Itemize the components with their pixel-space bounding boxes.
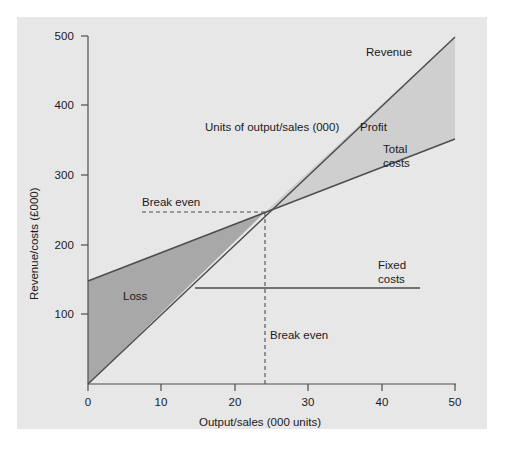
x-tick-label-20: 20	[221, 396, 249, 408]
fixed-costs-label-line2: costs	[378, 272, 406, 286]
chart-plot-area	[0, 0, 506, 459]
total-costs-series-label: Total costs	[383, 142, 410, 170]
loss-region-label: Loss	[123, 290, 147, 302]
x-axis-title: Output/sales (000 units)	[199, 416, 321, 428]
x-tick-label-10: 10	[147, 396, 175, 408]
y-tick-label-100: 100	[40, 308, 74, 320]
units-note-label: Units of output/sales (000)	[205, 121, 339, 133]
y-tick-label-500: 500	[40, 30, 74, 42]
x-tick-label-50: 50	[441, 396, 469, 408]
break-even-chart-figure: 500 400 300 200 100 0 10 20 30 40 50 Rev…	[0, 0, 506, 459]
y-tick-label-300: 300	[40, 169, 74, 181]
revenue-series-label: Revenue	[366, 45, 412, 59]
fixed-costs-series-label: Fixed costs	[378, 258, 406, 286]
profit-region-label: Profit	[360, 121, 387, 133]
y-tick-label-400: 400	[40, 99, 74, 111]
x-tick-label-40: 40	[368, 396, 396, 408]
y-axis-title: Revenue/costs (£000)	[28, 187, 40, 300]
break-even-horizontal-label: Break even	[142, 196, 200, 208]
y-tick-label-200: 200	[40, 239, 74, 251]
y-axis-ticks	[81, 36, 88, 314]
fixed-costs-label-line1: Fixed	[378, 258, 406, 272]
x-axis-ticks	[88, 384, 455, 391]
x-tick-label-0: 0	[74, 396, 102, 408]
total-costs-label-line1: Total	[383, 142, 410, 156]
break-even-vertical-label: Break even	[270, 329, 328, 341]
total-costs-label-line2: costs	[383, 156, 410, 170]
x-tick-label-30: 30	[294, 396, 322, 408]
